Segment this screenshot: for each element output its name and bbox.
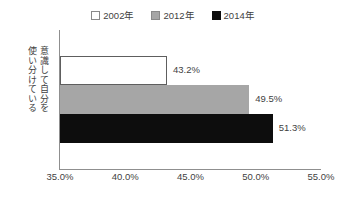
x-axis-tick-labels: 35.0% 40.0% 45.0% 50.0% 55.0%	[59, 172, 321, 188]
bar-2012[interactable]	[60, 85, 249, 114]
x-tick-1: 40.0%	[112, 172, 139, 182]
x-tick-0: 35.0%	[47, 172, 74, 182]
plot-area: 43.2% 49.5% 51.3%	[59, 30, 321, 170]
chart-legend: 2002年 2012年 2014年	[0, 11, 346, 21]
legend-swatch-gray-icon	[151, 11, 160, 20]
x-tick-2: 45.0%	[177, 172, 204, 182]
x-axis-line	[59, 169, 321, 170]
bar-2002[interactable]	[60, 56, 167, 85]
x-tick-3: 50.0%	[242, 172, 269, 182]
legend-swatch-white-icon	[91, 11, 100, 20]
bar-group: 43.2% 49.5% 51.3%	[60, 56, 321, 144]
legend-swatch-black-icon	[212, 11, 221, 20]
bar-2014[interactable]	[60, 114, 273, 143]
category-axis-label: 意識して自分を 使い分けている	[11, 46, 49, 154]
bar-value-label-2014: 51.3%	[279, 123, 306, 133]
legend-item-2012[interactable]: 2012年	[151, 11, 194, 21]
category-axis-label-col-1: 意識して自分を	[38, 46, 49, 113]
category-axis-label-col-2: 使い分けている	[27, 46, 38, 113]
legend-label-2002: 2002年	[103, 11, 134, 21]
legend-item-2002[interactable]: 2002年	[91, 11, 134, 21]
legend-label-2012: 2012年	[163, 11, 194, 21]
bar-value-label-2012: 49.5%	[255, 94, 282, 104]
x-tick-4: 55.0%	[308, 172, 335, 182]
bar-value-label-2002: 43.2%	[173, 65, 200, 75]
bar-chart: 2002年 2012年 2014年 意識して自分を 使い分けている 43.2% …	[0, 0, 346, 197]
legend-label-2014: 2014年	[224, 11, 255, 21]
legend-item-2014[interactable]: 2014年	[212, 11, 255, 21]
